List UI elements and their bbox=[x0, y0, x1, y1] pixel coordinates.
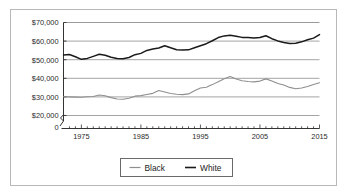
y-tick-label: $60,000 bbox=[32, 37, 59, 46]
y-tick-label: $70,000 bbox=[32, 18, 59, 27]
x-tick-label: 2005 bbox=[252, 132, 268, 141]
series-line-black bbox=[64, 76, 320, 99]
x-tick-label: 2015 bbox=[311, 132, 327, 141]
line-chart: $70,000$60,000$50,000$40,000$30,000$20,0… bbox=[0, 0, 349, 196]
gridlines bbox=[64, 23, 320, 116]
data-series bbox=[64, 35, 320, 100]
x-tick-label: 1975 bbox=[73, 132, 89, 141]
y-tick-labels: $70,000$60,000$50,000$40,000$30,000$20,0… bbox=[32, 18, 67, 120]
y-tick-label: $50,000 bbox=[32, 56, 59, 65]
x-tick-marks bbox=[69, 125, 319, 129]
chart-legend: BlackWhite bbox=[121, 159, 233, 177]
x-tick-labels: 19751985199520052015 bbox=[73, 132, 328, 141]
y-tick-label: $20,000 bbox=[32, 111, 59, 120]
axes bbox=[60, 23, 320, 129]
legend-label-black: Black bbox=[145, 163, 166, 173]
legend-label-white: White bbox=[200, 163, 222, 173]
series-line-white bbox=[64, 35, 320, 60]
y-tick-label: $40,000 bbox=[32, 74, 59, 83]
y-axis-origin-label: 0 bbox=[54, 123, 58, 132]
x-tick-label: 1995 bbox=[192, 132, 208, 141]
y-tick-label: $30,000 bbox=[32, 93, 59, 102]
chart-screenshot: $70,000$60,000$50,000$40,000$30,000$20,0… bbox=[0, 0, 349, 196]
x-tick-label: 1985 bbox=[133, 132, 149, 141]
